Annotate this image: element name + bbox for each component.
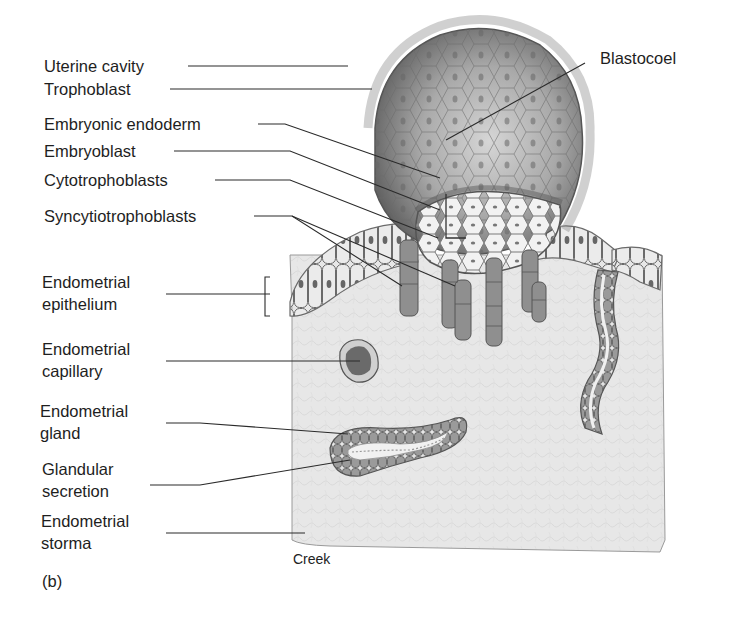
label-line-2: storma <box>41 532 129 554</box>
label-line-1: Glandular <box>42 458 114 480</box>
label-line-2: secretion <box>42 480 114 502</box>
label-cytotrophoblasts: Cytotrophoblasts <box>44 170 168 190</box>
label-trophoblast: Trophoblast <box>44 79 131 99</box>
diagram-canvas: Uterine cavity Trophoblast Embryonic end… <box>0 0 729 621</box>
label-endometrial-capillary: Endometrial capillary <box>42 338 130 382</box>
label-embryoblast: Embryoblast <box>44 141 136 161</box>
label-line-1: Endometrial <box>42 338 130 360</box>
label-embryonic-endoderm: Embryonic endoderm <box>44 114 201 134</box>
label-line-1: Endometrial <box>41 510 129 532</box>
label-uterine-cavity: Uterine cavity <box>44 56 144 76</box>
label-endometrial-storma: Endometrial storma <box>41 510 129 554</box>
label-glandular-secretion: Glandular secretion <box>42 458 114 502</box>
label-line-2: epithelium <box>42 293 130 315</box>
label-blastocoel: Blastocoel <box>600 48 676 68</box>
label-syncytiotrophoblasts: Syncytiotrophoblasts <box>44 206 196 226</box>
label-line-2: capillary <box>42 360 130 382</box>
illustrator-credit: Creek <box>293 551 330 567</box>
label-endometrial-epithelium: Endometrial epithelium <box>42 271 130 315</box>
panel-label: (b) <box>42 572 62 591</box>
label-line-1: Endometrial <box>42 271 130 293</box>
label-line-2: gland <box>40 422 128 444</box>
label-endometrial-gland: Endometrial gland <box>40 400 128 444</box>
label-line-1: Endometrial <box>40 400 128 422</box>
